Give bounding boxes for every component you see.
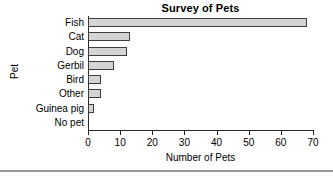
bar-dog[interactable] (88, 47, 127, 56)
bar-fish[interactable] (88, 18, 307, 27)
x-tick-mark (217, 131, 218, 135)
y-tick-label-cat: Cat (4, 32, 84, 42)
plot-area (88, 16, 313, 130)
x-tick-mark (120, 131, 121, 135)
x-tick-label-40: 40 (202, 137, 232, 148)
y-tick-label-fish: Fish (4, 18, 84, 28)
y-tick-label-guinea-pig: Guinea pig (4, 104, 84, 114)
x-tick-mark (281, 131, 282, 135)
x-tick-label-50: 50 (234, 137, 264, 148)
bar-row (88, 45, 313, 59)
y-tick-label-bird: Bird (4, 75, 84, 85)
bar-row (88, 87, 313, 101)
x-tick-label-10: 10 (105, 137, 135, 148)
bar-row (88, 16, 313, 30)
x-axis-title: Number of Pets (88, 152, 313, 163)
x-tick-mark (184, 131, 185, 135)
y-tick-label-gerbil: Gerbil (4, 61, 84, 71)
bar-row (88, 73, 313, 87)
bar-other[interactable] (88, 89, 101, 98)
bar-gerbil[interactable] (88, 61, 114, 70)
x-tick-mark (152, 131, 153, 135)
bar-bird[interactable] (88, 75, 101, 84)
x-tick-label-60: 60 (266, 137, 296, 148)
bar-row (88, 116, 313, 130)
y-tick-label-other: Other (4, 89, 84, 99)
bar-row (88, 59, 313, 73)
x-tick-mark (88, 131, 89, 135)
y-tick-label-dog: Dog (4, 47, 84, 57)
bottom-divider (0, 170, 333, 172)
y-axis-title: Pet (9, 52, 20, 92)
bar-cat[interactable] (88, 32, 130, 41)
x-tick-label-20: 20 (137, 137, 167, 148)
x-tick-label-30: 30 (169, 137, 199, 148)
x-tick-label-70: 70 (298, 137, 328, 148)
y-tick-label-no-pet: No pet (4, 118, 84, 128)
x-tick-mark (249, 131, 250, 135)
bar-row (88, 102, 313, 116)
bar-guinea-pig[interactable] (88, 104, 94, 113)
x-tick-mark (313, 131, 314, 135)
bar-chart-figure: Survey of Pets Pet FishCatDogGerbilBirdO… (0, 0, 333, 178)
bar-row (88, 30, 313, 44)
x-tick-label-0: 0 (73, 137, 103, 148)
chart-title: Survey of Pets (88, 2, 313, 14)
